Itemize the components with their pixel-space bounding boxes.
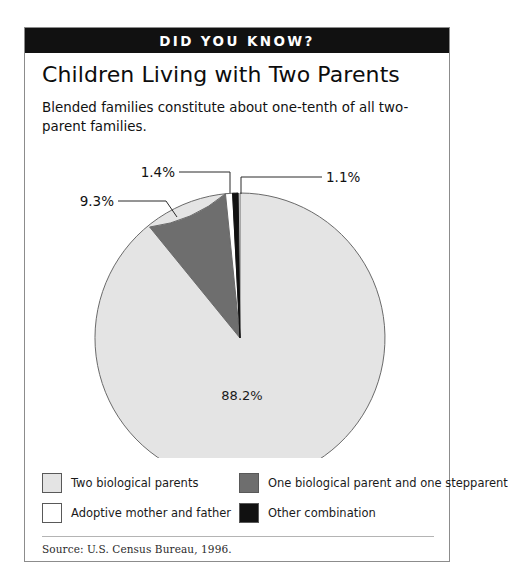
- legend: Two biological parents One biological pa…: [42, 468, 434, 528]
- legend-row: Adoptive mother and father Other combina…: [42, 498, 434, 528]
- leader-line-adoptive-mother-and-father: [179, 172, 230, 193]
- pie-chart: 1.1% 1.4% 9.3% 88.2%: [25, 138, 451, 458]
- legend-one-biological-one-stepparent[interactable]: One biological parent and one stepparent: [239, 473, 434, 493]
- pie-label-one-biological-one-stepparent: 9.3%: [80, 193, 114, 209]
- legend-other-combination[interactable]: Other combination: [239, 503, 434, 523]
- legend-label-two-biological-parents: Two biological parents: [71, 476, 198, 490]
- banner: DID YOU KNOW?: [25, 28, 449, 53]
- legend-label-other-combination: Other combination: [268, 506, 376, 520]
- legend-two-biological-parents[interactable]: Two biological parents: [42, 473, 239, 493]
- legend-adoptive-mother-and-father[interactable]: Adoptive mother and father: [42, 503, 239, 523]
- legend-swatch-adoptive-mother-and-father: [42, 503, 62, 523]
- source-note: Source: U.S. Census Bureau, 1996.: [42, 543, 232, 555]
- legend-label-adoptive-mother-and-father: Adoptive mother and father: [71, 506, 231, 520]
- legend-swatch-other-combination: [239, 503, 259, 523]
- pie-label-two-biological-parents: 88.2%: [221, 388, 262, 403]
- leader-line-other-combination: [241, 177, 322, 194]
- banner-title: DID YOU KNOW?: [159, 33, 315, 49]
- page-title: Children Living with Two Parents: [42, 62, 400, 87]
- did-you-know-card: DID YOU KNOW? Children Living with Two P…: [24, 27, 450, 562]
- subtitle-text: Blended families constitute about one-te…: [42, 98, 434, 136]
- legend-row: Two biological parents One biological pa…: [42, 468, 434, 498]
- legend-swatch-one-biological-one-stepparent: [239, 473, 259, 493]
- legend-swatch-two-biological-parents: [42, 473, 62, 493]
- legend-label-one-biological-one-stepparent: One biological parent and one stepparent: [268, 476, 508, 490]
- pie-label-other-combination: 1.1%: [326, 169, 360, 185]
- pie-chart-svg: 1.1% 1.4% 9.3% 88.2%: [25, 138, 451, 458]
- pie-label-adoptive-mother-and-father: 1.4%: [141, 164, 175, 180]
- source-divider: [42, 536, 434, 537]
